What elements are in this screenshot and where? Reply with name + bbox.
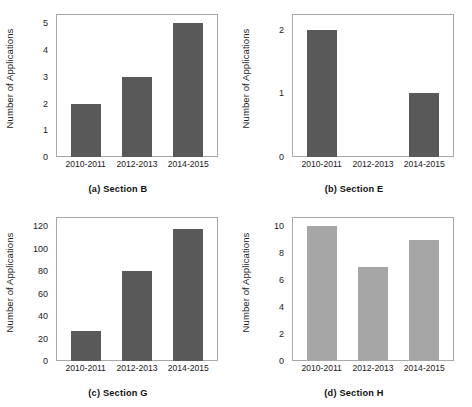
bar-chart-figure: Number of Applications 012345 2010-20112… <box>0 0 472 407</box>
panel-caption-d: (d) Section H <box>236 388 472 398</box>
bar <box>173 23 203 157</box>
y-tick-label: 0 <box>43 152 48 162</box>
y-tick-label: 5 <box>43 18 48 28</box>
bar <box>358 267 388 361</box>
x-tick-label: 2012-2013 <box>347 363 398 377</box>
x-tick-label: 2012-2013 <box>111 363 162 377</box>
bar-slot <box>60 217 111 361</box>
bar-slot <box>60 14 111 157</box>
x-tick-label: 2012-2013 <box>347 159 398 173</box>
x-tick-label: 2014-2015 <box>163 159 214 173</box>
y-axis-ticks-c: 020406080100120 <box>18 217 52 361</box>
bar <box>71 331 101 361</box>
bar-slot <box>296 217 347 361</box>
x-tick-label: 2010-2011 <box>296 363 347 377</box>
chart-panel-a: Number of Applications 012345 2010-20112… <box>0 0 236 203</box>
y-tick-label: 0 <box>279 152 284 162</box>
x-tick-label: 2012-2013 <box>111 159 162 173</box>
x-axis-ticks-b: 2010-20112012-20132014-2015 <box>292 159 454 173</box>
panel-caption-a: (a) Section B <box>0 184 236 194</box>
bar <box>307 226 337 361</box>
bar-slot <box>347 217 398 361</box>
y-tick-label: 8 <box>279 248 284 258</box>
x-tick-label: 2014-2015 <box>163 363 214 377</box>
bar-group-b <box>292 14 454 157</box>
y-tick-label: 4 <box>279 302 284 312</box>
y-tick-label: 80 <box>38 266 48 276</box>
bar <box>409 93 439 157</box>
plot-area-c <box>56 217 218 361</box>
bar-slot <box>399 217 450 361</box>
bar-group-a <box>56 14 218 157</box>
y-tick-label: 1 <box>43 125 48 135</box>
bar <box>122 271 152 361</box>
panel-caption-b: (b) Section E <box>236 184 472 194</box>
bar-slot <box>399 14 450 157</box>
y-axis-title-b: Number of Applications <box>238 0 254 157</box>
bar-slot <box>163 14 214 157</box>
y-tick-label: 1 <box>279 88 284 98</box>
y-tick-label: 3 <box>43 72 48 82</box>
bar-group-d <box>292 217 454 361</box>
y-axis-title-d: Number of Applications <box>238 203 254 361</box>
y-axis-title-a: Number of Applications <box>2 0 18 157</box>
y-axis-title-c: Number of Applications <box>2 203 18 361</box>
bar-slot <box>111 217 162 361</box>
plot-area-b <box>292 14 454 157</box>
y-tick-label: 2 <box>279 25 284 35</box>
y-tick-label: 20 <box>38 334 48 344</box>
x-axis-ticks-c: 2010-20112012-20132014-2015 <box>56 363 218 377</box>
x-tick-label: 2010-2011 <box>60 159 111 173</box>
x-axis-ticks-d: 2010-20112012-20132014-2015 <box>292 363 454 377</box>
plot-area-a <box>56 14 218 157</box>
y-tick-label: 2 <box>43 99 48 109</box>
bar <box>173 229 203 361</box>
y-tick-label: 100 <box>33 244 48 254</box>
x-tick-label: 2010-2011 <box>60 363 111 377</box>
chart-panel-d: Number of Applications 0246810 2010-2011… <box>236 203 472 407</box>
bar <box>307 30 337 157</box>
y-axis-ticks-a: 012345 <box>18 14 52 157</box>
bar <box>122 77 152 157</box>
y-tick-label: 120 <box>33 221 48 231</box>
y-tick-label: 6 <box>279 275 284 285</box>
x-tick-label: 2014-2015 <box>399 363 450 377</box>
bar-slot <box>347 14 398 157</box>
bar-slot <box>296 14 347 157</box>
x-tick-label: 2010-2011 <box>296 159 347 173</box>
y-axis-ticks-d: 0246810 <box>254 217 288 361</box>
y-tick-label: 4 <box>43 45 48 55</box>
x-tick-label: 2014-2015 <box>399 159 450 173</box>
y-tick-label: 10 <box>274 221 284 231</box>
bar <box>409 240 439 361</box>
y-tick-label: 0 <box>43 356 48 366</box>
x-axis-ticks-a: 2010-20112012-20132014-2015 <box>56 159 218 173</box>
panel-caption-c: (c) Section G <box>0 388 236 398</box>
y-tick-label: 0 <box>279 356 284 366</box>
y-tick-label: 2 <box>279 329 284 339</box>
y-tick-label: 40 <box>38 311 48 321</box>
y-tick-label: 60 <box>38 289 48 299</box>
y-axis-ticks-b: 012 <box>254 14 288 157</box>
bar-slot <box>111 14 162 157</box>
bar <box>71 104 101 157</box>
chart-panel-b: Number of Applications 012 2010-20112012… <box>236 0 472 203</box>
bar-slot <box>163 217 214 361</box>
chart-panel-c: Number of Applications 020406080100120 2… <box>0 203 236 407</box>
bar-group-c <box>56 217 218 361</box>
plot-area-d <box>292 217 454 361</box>
